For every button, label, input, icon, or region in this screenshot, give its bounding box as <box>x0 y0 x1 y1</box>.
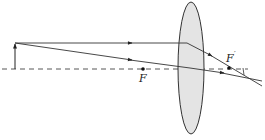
ray-oblique-incident <box>15 43 132 60</box>
back-focal-point <box>227 66 231 70</box>
image-point-tick <box>243 68 244 75</box>
front-focal-label: F <box>138 72 147 85</box>
front-focal-point <box>141 67 145 71</box>
back-focal-prime: ′ <box>234 50 236 58</box>
back-focal-label: F <box>225 52 234 65</box>
ray-parallel-refracted-cont <box>210 55 262 86</box>
ray-diagram: F F ′ <box>0 0 265 140</box>
